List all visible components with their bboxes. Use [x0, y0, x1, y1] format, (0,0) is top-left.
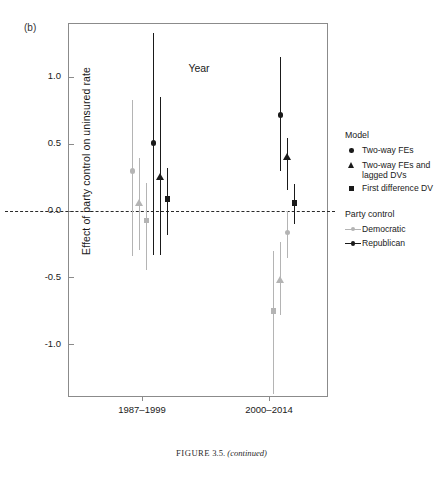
- error-bar: [132, 100, 133, 256]
- caption-prefix: FIGURE: [176, 448, 210, 458]
- legend-item-label: Republican: [361, 238, 405, 248]
- data-point-triangle: [276, 276, 284, 283]
- legend-square-icon: [345, 183, 361, 194]
- x-tick-mark: [269, 396, 270, 401]
- data-point-square: [271, 308, 277, 314]
- x-axis-title: Year: [69, 62, 329, 74]
- data-point-circle: [285, 230, 291, 236]
- legend-party-title: Party control: [345, 209, 443, 219]
- legend-item-party-0[interactable]: Democratic: [345, 224, 443, 235]
- legend-item-model-1[interactable]: Two-way FEs and lagged DVs: [345, 160, 443, 180]
- y-tick-mark: [69, 344, 74, 345]
- data-point-triangle: [135, 199, 143, 206]
- legend-item-model-2[interactable]: First difference DV: [345, 183, 443, 194]
- figure-panel-b: (b) 1.00.50.0-0.5-1.01987–19992000–2014 …: [0, 0, 443, 477]
- data-point-triangle: [283, 153, 291, 160]
- y-tick-mark: [69, 144, 74, 145]
- x-tick-label: 1987–1999: [96, 404, 188, 415]
- y-tick-label: 0.5: [48, 137, 61, 148]
- y-tick-label: -0.5: [45, 271, 61, 282]
- error-bar: [287, 138, 288, 190]
- y-tick-label: 0.0: [48, 204, 61, 215]
- error-bar: [146, 183, 147, 270]
- y-axis-title: Effect of party control on uninsured rat…: [80, 0, 92, 326]
- error-bar: [273, 251, 274, 394]
- data-point-square: [292, 200, 298, 206]
- legend-item-label: Two-way FEs: [361, 145, 414, 155]
- x-tick-label: 2000–2014: [223, 404, 315, 415]
- legend-triangle-icon: [345, 160, 361, 171]
- panel-label: (b): [24, 22, 36, 33]
- legend-item-model-0[interactable]: Two-way FEs: [345, 145, 443, 156]
- legend-circle-icon: [345, 145, 361, 156]
- legend-item-label: Two-way FEs and lagged DVs: [361, 160, 443, 180]
- data-point-circle: [151, 140, 157, 146]
- x-tick-mark: [142, 396, 143, 401]
- y-tick-mark: [69, 77, 74, 78]
- legend-model-title: Model: [345, 130, 443, 140]
- figure-caption: FIGURE 3.5. (continued): [0, 448, 443, 458]
- data-point-circle: [278, 112, 284, 118]
- data-point-circle: [130, 168, 136, 174]
- zero-reference-line: [5, 211, 335, 212]
- caption-number: 3.5.: [212, 448, 225, 458]
- caption-note: (continued): [227, 448, 267, 458]
- y-tick-label: 1.0: [48, 70, 61, 81]
- plot-area: 1.00.50.0-0.5-1.01987–19992000–2014 Effe…: [68, 23, 328, 397]
- y-tick-label: -1.0: [45, 338, 61, 349]
- legend-item-label: First difference DV: [361, 183, 433, 193]
- data-point-square: [165, 196, 171, 202]
- y-tick-mark: [69, 277, 74, 278]
- legend-line-marker-icon: [345, 238, 361, 249]
- legend-item-label: Democratic: [361, 224, 405, 234]
- legend: Model Two-way FEsTwo-way FEs and lagged …: [345, 130, 443, 253]
- data-point-square: [144, 218, 150, 224]
- legend-item-party-1[interactable]: Republican: [345, 238, 443, 249]
- legend-line-marker-icon: [345, 224, 361, 235]
- data-point-triangle: [156, 173, 164, 180]
